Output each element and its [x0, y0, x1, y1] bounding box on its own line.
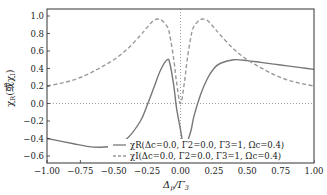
x-tick-label: 0.75	[271, 166, 290, 176]
legend: χR(Δc=0.0, Γ2=0.0, Γ3=1, Ωc=0.4) χI(Δc=0…	[108, 139, 314, 163]
y-tick-label: −0.4	[23, 134, 44, 144]
y-tick-label: −0.2	[23, 116, 44, 126]
x-tick-label: −0.50	[101, 166, 127, 176]
y-tick-label: 1.0	[30, 11, 44, 21]
y-tick-label: 0.6	[30, 46, 44, 56]
chart: −1.00−0.75−0.50−0.250.000.250.500.751.00…	[0, 0, 327, 195]
x-tick-label: −1.00	[34, 166, 60, 176]
legend-item-chi-r: χR(Δc=0.0, Γ2=0.0, Γ3=1, Ωc=0.4)	[130, 140, 284, 150]
y-axis-label: χR(或χI)	[4, 69, 17, 107]
x-tick-label: 0.25	[204, 166, 223, 176]
y-tick-label: 0.8	[30, 29, 44, 39]
y-tick-label: 0.4	[30, 64, 44, 74]
legend-item-chi-i: χI(Δc=0.0, Γ2=0.0, Γ3=1, Ωc=0.4)	[130, 151, 281, 161]
x-tick-label: 0.00	[171, 166, 190, 176]
y-tick-label: −0.6	[23, 151, 44, 161]
x-tick-label: 0.50	[238, 166, 257, 176]
y-tick-label: 0.0	[30, 99, 44, 109]
y-axis-ticks: −0.6−0.4−0.20.00.20.40.60.81.0	[23, 11, 50, 161]
y-tick-label: 0.2	[30, 81, 44, 91]
x-tick-label: −0.75	[67, 166, 93, 176]
x-tick-label: −0.25	[134, 166, 160, 176]
x-tick-label: 1.00	[305, 166, 324, 176]
x-axis-label: Δp/Γ3	[162, 179, 189, 192]
